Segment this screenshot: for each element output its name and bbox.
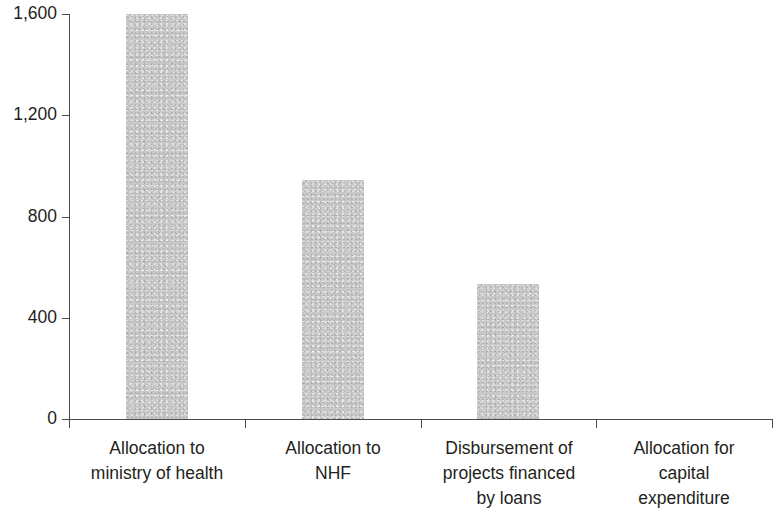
x-axis-category-label: Disbursement ofprojects financedby loans bbox=[421, 436, 597, 511]
category-label-line: NHF bbox=[245, 461, 421, 486]
x-axis-tick bbox=[421, 419, 422, 428]
bar bbox=[302, 180, 364, 419]
category-label-line: ministry of health bbox=[69, 461, 245, 486]
x-axis-tick bbox=[772, 419, 773, 428]
x-axis-tick bbox=[69, 419, 70, 428]
category-label-line: expenditure bbox=[596, 486, 772, 511]
y-axis-tick-label: 400 bbox=[0, 309, 57, 327]
bar-chart: 04008001,2001,600 Allocation toministry … bbox=[0, 0, 776, 514]
x-axis-category-label: Allocation forcapitalexpenditure bbox=[596, 436, 772, 511]
y-axis-tick-label: 0 bbox=[0, 410, 57, 428]
y-axis-tick bbox=[62, 217, 70, 218]
y-axis-tick-label: 800 bbox=[0, 208, 57, 226]
x-axis-tick bbox=[245, 419, 246, 428]
x-axis-category-label: Allocation toNHF bbox=[245, 436, 421, 486]
category-label-line: Allocation for bbox=[596, 436, 772, 461]
category-label-line: Allocation to bbox=[245, 436, 421, 461]
category-label-line: Disbursement of bbox=[421, 436, 597, 461]
y-axis-tick bbox=[62, 14, 70, 15]
category-label-line: by loans bbox=[421, 486, 597, 511]
category-label-line: projects financed bbox=[421, 461, 597, 486]
x-axis-tick bbox=[596, 419, 597, 428]
bar bbox=[126, 14, 188, 419]
bar bbox=[477, 284, 539, 419]
category-label-line: Allocation to bbox=[69, 436, 245, 461]
x-axis-category-label: Allocation toministry of health bbox=[69, 436, 245, 486]
y-axis-tick-label: 1,600 bbox=[0, 5, 57, 23]
category-label-line: capital bbox=[596, 461, 772, 486]
y-axis-tick bbox=[62, 318, 70, 319]
y-axis-tick bbox=[62, 115, 70, 116]
y-axis-tick-label: 1,200 bbox=[0, 106, 57, 124]
